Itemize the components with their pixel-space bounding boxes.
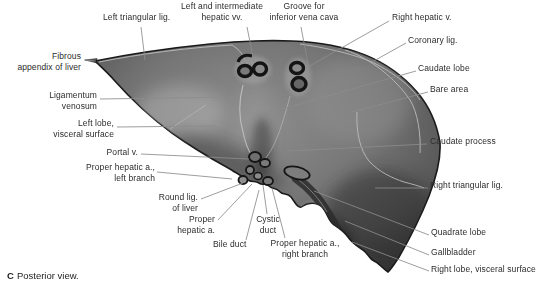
label-proper-hepatic-right: Proper hepatic a.,right branch (271, 238, 340, 259)
label-gallbladder: Gallbladder (431, 247, 476, 258)
label-coronary-lig: Coronary lig. (408, 35, 458, 46)
label-fibrous-appendix: Fibrousappendix of liver (17, 51, 81, 72)
label-round-lig: Round lig.of liver (159, 192, 198, 213)
label-cystic-duct: Cysticduct (256, 214, 280, 235)
round-ligament-stump (239, 176, 248, 184)
leader-cystic-duct (263, 185, 267, 214)
label-right-hepatic-v: Right hepatic v. (392, 12, 452, 23)
label-caudate-lobe: Caudate lobe (418, 63, 470, 74)
label-left-lobe-visceral: Left lobe,visceral surface (53, 118, 114, 139)
label-left-triangular: Left triangular lig. (103, 12, 170, 23)
anatomy-figure-liver-posterior-view: Fibrousappendix of liver Ligamentumvenos… (0, 0, 552, 295)
label-quadrate-lobe: Quadrate lobe (431, 227, 486, 238)
ivc-groove-opening (292, 78, 306, 91)
bile-duct-stump (254, 173, 262, 180)
label-portal-v: Portal v. (107, 147, 138, 158)
label-proper-hepatic-left: Proper hepatic a.,left branch (86, 162, 155, 183)
figure-caption: CPosterior view. (7, 270, 79, 281)
caption-text: Posterior view. (17, 270, 79, 281)
intermediate-hepatic-vein-opening (254, 63, 267, 75)
cystic-duct-stump (263, 177, 273, 185)
label-caudate-process: Caudate process (430, 136, 496, 147)
label-groove-ivc: Groove forinferior vena cava (270, 1, 339, 22)
label-proper-hepatic-a: Properhepatic a. (177, 214, 215, 235)
leader-proper-hepatic-a (218, 184, 252, 220)
label-right-lobe-visceral: Right lobe, visceral surface (431, 264, 536, 275)
label-left-intermediate-vv: Left and intermediatehepatic vv. (181, 1, 263, 22)
caption-letter: C (7, 270, 14, 281)
proper-hepatic-artery-stump (246, 166, 254, 174)
label-bile-duct: Bile duct (213, 239, 247, 250)
label-right-triangular: Right triangular lig. (430, 180, 503, 191)
label-bare-area: Bare area (430, 84, 468, 95)
portal-vein-stump (249, 152, 261, 162)
leader-proper-hepatic-left (157, 172, 232, 179)
right-hepatic-vein-opening (291, 63, 304, 74)
label-ligamentum-venosum: Ligamentumvenosum (49, 90, 97, 111)
leader-coronary-lig (372, 43, 406, 62)
leader-round-lig (201, 183, 243, 199)
left-hepatic-vein-opening (239, 66, 252, 77)
